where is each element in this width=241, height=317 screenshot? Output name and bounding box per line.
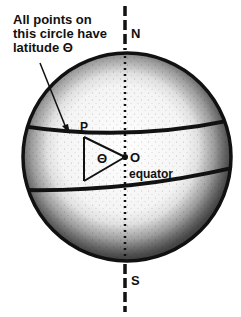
north-label: N	[131, 26, 140, 41]
globe-latitude-diagram: N S P O Θ equator	[0, 0, 241, 317]
angle-theta-label: Θ	[97, 151, 107, 166]
center-point-o	[122, 154, 128, 160]
center-o-label: O	[130, 150, 140, 165]
point-p-label: P	[80, 120, 88, 134]
south-label: S	[131, 273, 140, 288]
equator-label: equator	[129, 167, 173, 181]
